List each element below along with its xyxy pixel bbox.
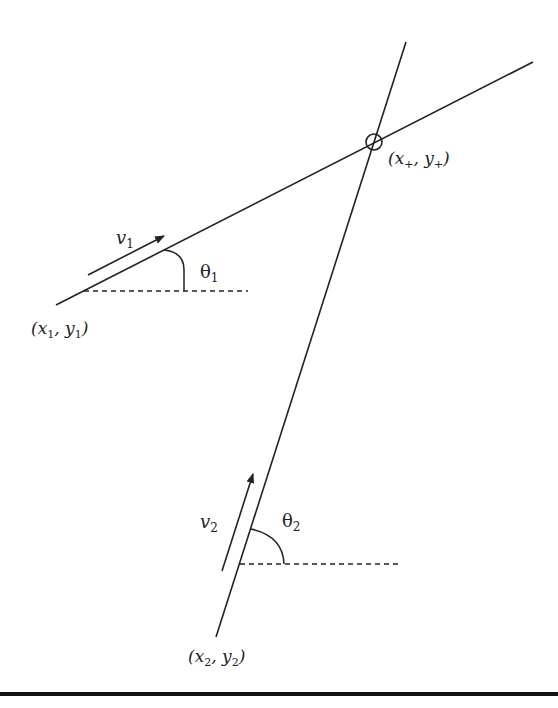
angle-label-2: θ2 xyxy=(282,510,300,534)
trajectory-line-1 xyxy=(56,62,533,305)
diagram-svg: (x+, y+) v1 θ1 (x1, y1) v2 θ2 (x2, y2) xyxy=(0,0,558,708)
intersection-label: (x+, y+) xyxy=(388,148,450,171)
start-point-label-2: (x2, y2) xyxy=(188,646,245,669)
angle-arc-2 xyxy=(251,529,284,564)
start-point-label-1: (x1, y1) xyxy=(31,318,88,341)
velocity-label-1: v1 xyxy=(116,227,134,251)
angle-label-1: θ1 xyxy=(200,261,218,285)
trajectory-diagram: (x+, y+) v1 θ1 (x1, y1) v2 θ2 (x2, y2) xyxy=(0,0,558,708)
angle-arc-1 xyxy=(164,250,184,291)
bottom-rule xyxy=(0,692,558,696)
velocity-label-2: v2 xyxy=(200,511,218,535)
velocity-arrow-2 xyxy=(222,474,253,571)
trajectory-line-2 xyxy=(216,42,406,637)
